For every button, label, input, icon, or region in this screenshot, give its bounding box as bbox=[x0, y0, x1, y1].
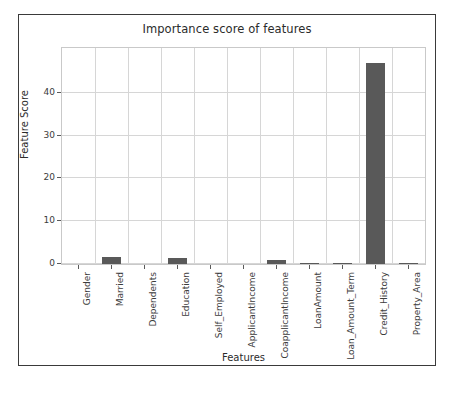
gridline-vertical bbox=[326, 48, 327, 264]
x-axis-tick-label: CoapplicantIncome bbox=[280, 272, 290, 359]
gridline-vertical bbox=[194, 48, 195, 264]
x-axis-tick-label: LoanAmount bbox=[313, 272, 323, 329]
x-axis-tick-mark bbox=[111, 265, 112, 269]
bar bbox=[102, 257, 120, 264]
gridline-vertical bbox=[293, 48, 294, 264]
x-axis-tick-mark bbox=[210, 265, 211, 269]
x-axis-tick-label: Loan_Amount_Term bbox=[346, 272, 356, 360]
gridline-vertical bbox=[161, 48, 162, 264]
x-axis-tick-label: Gender bbox=[82, 272, 92, 305]
x-axis-tick-mark bbox=[276, 265, 277, 269]
x-axis-tick-mark bbox=[78, 265, 79, 269]
gridline-vertical bbox=[128, 48, 129, 264]
y-axis-tick-mark bbox=[57, 92, 61, 93]
y-axis-tick-label: 20 bbox=[29, 172, 55, 182]
x-axis-tick-mark bbox=[144, 265, 145, 269]
x-axis-tick-label: Dependents bbox=[148, 272, 158, 327]
bar bbox=[366, 63, 384, 264]
gridline-vertical bbox=[392, 48, 393, 264]
bar bbox=[399, 263, 417, 264]
x-axis-tick-mark bbox=[375, 265, 376, 269]
x-axis-tick-label: ApplicantIncome bbox=[247, 272, 257, 347]
x-axis-tick-label: Property_Area bbox=[412, 272, 422, 335]
x-axis-tick-mark bbox=[342, 265, 343, 269]
chart-title: Importance score of features bbox=[18, 22, 436, 36]
y-axis-tick-label: 10 bbox=[29, 215, 55, 225]
x-axis-tick-mark bbox=[309, 265, 310, 269]
x-axis-label: Features bbox=[61, 352, 426, 363]
gridline-vertical bbox=[359, 48, 360, 264]
bar bbox=[267, 260, 285, 264]
x-axis-tick-label: Education bbox=[181, 272, 191, 317]
y-axis-tick-label: 40 bbox=[29, 87, 55, 97]
y-axis-tick-mark bbox=[57, 135, 61, 136]
x-axis-tick-label: Married bbox=[115, 272, 125, 306]
gridline-vertical bbox=[260, 48, 261, 264]
x-axis-tick-mark bbox=[408, 265, 409, 269]
x-axis-tick-mark bbox=[177, 265, 178, 269]
y-axis-tick-mark bbox=[57, 177, 61, 178]
bar bbox=[300, 263, 318, 264]
x-axis-tick-label: Self_Employed bbox=[214, 272, 224, 338]
y-axis-tick-label: 30 bbox=[29, 130, 55, 140]
y-axis-tick-mark bbox=[57, 263, 61, 264]
gridline-vertical bbox=[227, 48, 228, 264]
figure: Importance score of features Feature Sco… bbox=[0, 0, 454, 394]
x-axis-tick-label: Credit_History bbox=[379, 272, 389, 336]
y-axis-tick-labels: 010203040 bbox=[27, 47, 55, 265]
bar bbox=[333, 263, 351, 264]
gridline-vertical bbox=[95, 48, 96, 264]
y-axis-tick-mark bbox=[57, 220, 61, 221]
y-axis-tick-label: 0 bbox=[29, 258, 55, 268]
plot-area bbox=[61, 47, 426, 265]
bar bbox=[168, 258, 186, 264]
x-axis-tick-mark bbox=[243, 265, 244, 269]
x-axis-tick-labels: GenderMarriedDependentsEducationSelf_Emp… bbox=[61, 266, 426, 354]
